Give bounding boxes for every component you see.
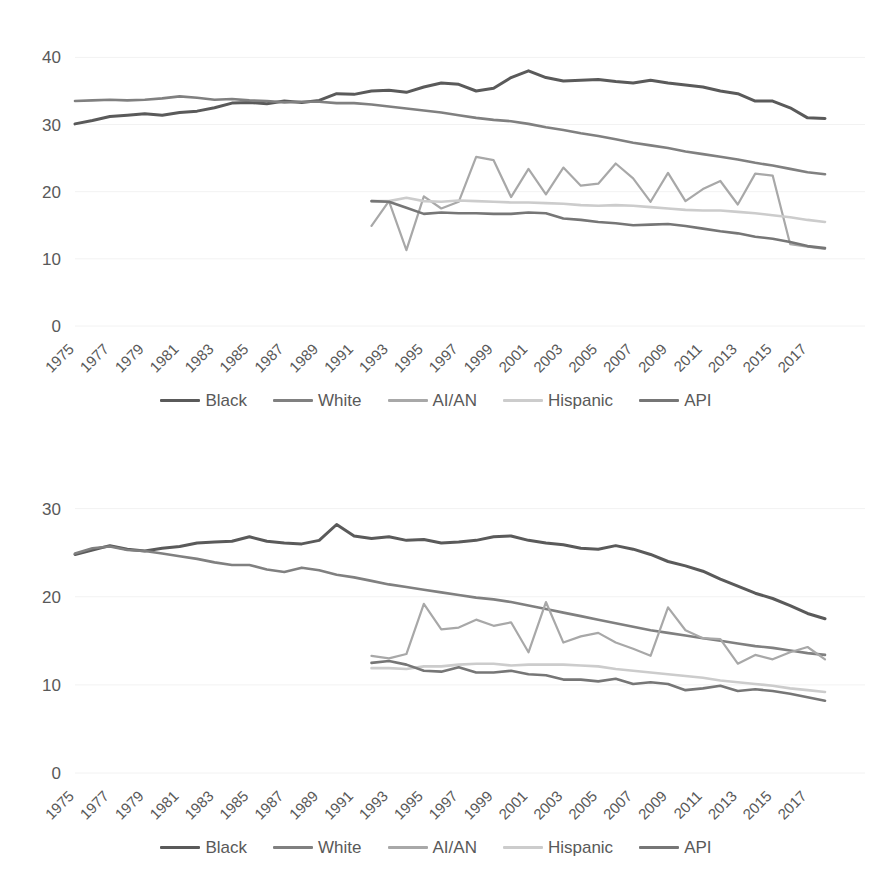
figure-container: 0102030401975197719791981198319851987198… — [0, 0, 872, 887]
legend-bottom: BlackWhiteAI/ANHispanicAPI — [0, 839, 872, 856]
y-axis-tick-label: 40 — [42, 48, 61, 67]
legend-label: AI/AN — [433, 392, 477, 409]
legend-swatch-icon — [503, 846, 543, 849]
legend-swatch-icon — [503, 399, 543, 402]
legend-label: Hispanic — [548, 839, 613, 856]
legend-label: Black — [205, 392, 247, 409]
legend-top: BlackWhiteAI/ANHispanicAPI — [0, 392, 872, 409]
legend-item-api[interactable]: API — [639, 392, 711, 409]
x-axis-tick-label: 1987 — [251, 787, 287, 823]
x-axis-tick-label: 1993 — [355, 340, 391, 376]
x-axis-tick-label: 1983 — [181, 340, 217, 376]
legend-label: API — [684, 839, 711, 856]
x-axis-tick-label: 2003 — [530, 340, 566, 376]
line-chart-bottom-plot: 0102030197519771979198119831985198719891… — [0, 447, 872, 837]
series-line-black — [75, 524, 825, 618]
series-line-ai-an — [372, 602, 825, 664]
legend-item-black[interactable]: Black — [160, 839, 247, 856]
x-axis-tick-label: 1981 — [146, 340, 182, 376]
legend-label: AI/AN — [433, 839, 477, 856]
x-axis-tick-label: 2001 — [495, 787, 531, 823]
x-axis-tick-label: 2009 — [635, 787, 671, 823]
x-axis-tick-label: 1981 — [146, 787, 182, 823]
x-axis-tick-label: 2011 — [670, 340, 705, 375]
x-axis-tick-label: 1977 — [76, 340, 112, 376]
x-axis-tick-label: 2017 — [774, 787, 810, 823]
x-axis-tick-label: 2009 — [635, 340, 671, 376]
legend-item-white[interactable]: White — [273, 839, 361, 856]
x-axis-tick-label: 1999 — [460, 340, 496, 376]
legend-label: White — [318, 392, 361, 409]
x-axis-tick-label: 1997 — [425, 340, 461, 376]
x-axis-tick-label: 1987 — [251, 340, 287, 376]
x-axis-tick-label: 2013 — [704, 340, 740, 376]
x-axis-tick-label: 1975 — [42, 340, 78, 376]
legend-label: Black — [205, 839, 247, 856]
legend-item-white[interactable]: White — [273, 392, 361, 409]
y-axis-tick-label: 30 — [42, 116, 61, 135]
x-axis-tick-label: 2001 — [495, 340, 531, 376]
x-axis-tick-label: 1979 — [111, 340, 147, 376]
x-axis-tick-label: 2007 — [600, 340, 636, 376]
legend-swatch-icon — [388, 399, 428, 402]
x-axis-tick-label: 2017 — [774, 340, 810, 376]
legend-item-api[interactable]: API — [639, 839, 711, 856]
x-axis-tick-label: 1989 — [286, 787, 322, 823]
x-axis-tick-label: 2015 — [739, 340, 775, 376]
chart-top: 0102030401975197719791981198319851987198… — [0, 0, 872, 440]
legend-item-ai-an[interactable]: AI/AN — [388, 839, 477, 856]
x-axis-tick-label: 2005 — [565, 787, 601, 823]
x-axis-tick-label: 1977 — [76, 787, 112, 823]
x-axis-tick-label: 2003 — [530, 787, 566, 823]
series-line-white — [75, 96, 825, 174]
legend-swatch-icon — [639, 399, 679, 402]
x-axis-tick-label: 1985 — [216, 340, 252, 376]
legend-label: API — [684, 392, 711, 409]
legend-label: Hispanic — [548, 392, 613, 409]
line-chart-top-plot: 0102030401975197719791981198319851987198… — [0, 0, 872, 390]
x-axis-tick-label: 1995 — [390, 340, 426, 376]
y-axis-tick-label: 20 — [42, 183, 61, 202]
legend-label: White — [318, 839, 361, 856]
x-axis-tick-label: 1989 — [286, 340, 322, 376]
x-axis-tick-label: 1985 — [216, 787, 252, 823]
legend-swatch-icon — [160, 399, 200, 402]
y-axis-tick-label: 30 — [42, 500, 61, 519]
y-axis-tick-label: 10 — [42, 676, 61, 695]
x-axis-tick-label: 2015 — [739, 787, 775, 823]
series-line-hispanic — [372, 664, 825, 692]
x-axis-tick-label: 2013 — [704, 787, 740, 823]
x-axis-tick-label: 1995 — [390, 787, 426, 823]
y-axis-tick-label: 0 — [52, 317, 61, 336]
legend-swatch-icon — [273, 399, 313, 402]
x-axis-tick-label: 1997 — [425, 787, 461, 823]
legend-swatch-icon — [273, 846, 313, 849]
x-axis-tick-label: 1999 — [460, 787, 496, 823]
legend-item-hispanic[interactable]: Hispanic — [503, 392, 613, 409]
y-axis-tick-label: 20 — [42, 588, 61, 607]
y-axis-tick-label: 0 — [52, 764, 61, 783]
x-axis-tick-label: 1991 — [321, 787, 357, 823]
legend-swatch-icon — [388, 846, 428, 849]
x-axis-tick-label: 2005 — [565, 340, 601, 376]
chart-bottom: 0102030197519771979198119831985198719891… — [0, 447, 872, 887]
x-axis-tick-label: 1975 — [42, 787, 78, 823]
legend-item-hispanic[interactable]: Hispanic — [503, 839, 613, 856]
x-axis-tick-label: 1979 — [111, 787, 147, 823]
x-axis-tick-label: 1993 — [355, 787, 391, 823]
x-axis-tick-label: 1991 — [321, 340, 357, 376]
legend-item-black[interactable]: Black — [160, 392, 247, 409]
x-axis-tick-label: 2011 — [670, 787, 705, 822]
x-axis-tick-label: 1983 — [181, 787, 217, 823]
legend-swatch-icon — [160, 846, 200, 849]
x-axis-tick-label: 2007 — [600, 787, 636, 823]
y-axis-tick-label: 10 — [42, 250, 61, 269]
legend-item-ai-an[interactable]: AI/AN — [388, 392, 477, 409]
legend-swatch-icon — [639, 846, 679, 849]
series-line-hispanic — [372, 198, 825, 222]
